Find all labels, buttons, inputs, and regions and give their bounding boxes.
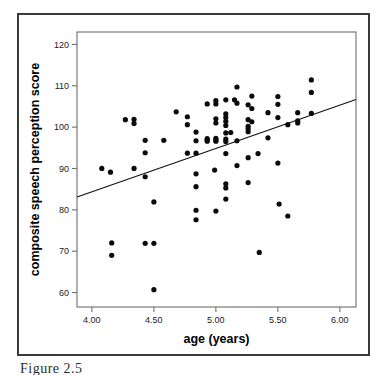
x-tick-label: 4.00: [83, 315, 101, 325]
data-point: [234, 101, 239, 106]
data-point: [108, 170, 113, 175]
x-tick-label: 4.50: [145, 315, 163, 325]
data-point: [295, 120, 300, 125]
data-point: [185, 114, 190, 119]
x-tick-label: 6.00: [331, 315, 349, 325]
data-point: [223, 151, 228, 156]
data-point: [228, 130, 233, 135]
x-axis-ticks: 4.004.505.005.506.00: [83, 307, 349, 325]
y-axis-title: composite speech perception score: [28, 63, 42, 276]
data-point: [212, 168, 217, 173]
data-point: [131, 166, 136, 171]
data-point: [213, 139, 218, 144]
data-point: [185, 151, 190, 156]
data-point: [257, 250, 262, 255]
data-point: [99, 166, 104, 171]
data-point: [151, 287, 156, 292]
data-point: [185, 122, 190, 127]
data-point: [161, 138, 166, 143]
data-point: [285, 213, 290, 218]
data-point: [246, 129, 251, 134]
data-point: [275, 115, 280, 120]
x-axis-title: age (years): [183, 332, 249, 346]
data-point: [193, 171, 198, 176]
data-point: [205, 101, 210, 106]
data-point: [249, 119, 254, 124]
data-point: [277, 201, 282, 206]
data-point: [143, 150, 148, 155]
x-tick-label: 5.50: [269, 315, 287, 325]
y-tick-label: 120: [54, 40, 69, 50]
y-tick-label: 80: [59, 205, 69, 215]
data-point: [223, 139, 228, 144]
data-point: [275, 160, 280, 165]
data-point: [249, 106, 254, 111]
data-point: [309, 77, 314, 82]
data-point: [205, 139, 210, 144]
data-point: [309, 90, 314, 95]
data-point: [143, 241, 148, 246]
data-point: [143, 174, 148, 179]
data-point: [213, 208, 218, 213]
data-point: [246, 102, 251, 107]
data-point: [246, 180, 251, 185]
data-point: [275, 94, 280, 99]
y-tick-label: 60: [59, 288, 69, 298]
data-point: [234, 84, 239, 89]
y-tick-label: 110: [55, 81, 69, 91]
data-point: [295, 110, 300, 115]
figure-container: 60708090100110120 4.004.505.005.506.00 a…: [0, 0, 388, 375]
data-point: [193, 184, 198, 189]
figure-caption: Figure 2.5: [20, 361, 350, 375]
y-tick-label: 90: [59, 164, 69, 174]
data-point: [249, 94, 254, 99]
data-point: [246, 155, 251, 160]
data-point: [265, 110, 270, 115]
data-point: [193, 208, 198, 213]
y-axis-ticks: 60708090100110120: [54, 40, 77, 298]
data-point: [131, 121, 136, 126]
y-tick-label: 70: [59, 246, 69, 256]
y-tick-label: 100: [54, 122, 69, 132]
data-point: [223, 97, 228, 102]
data-point: [109, 253, 114, 258]
data-point: [213, 101, 218, 106]
scatter-plot: 60708090100110120 4.004.505.005.506.00 a…: [17, 13, 370, 356]
data-point: [255, 151, 260, 156]
data-point: [193, 138, 198, 143]
data-point: [223, 185, 228, 190]
data-point: [151, 241, 156, 246]
data-point: [151, 199, 156, 204]
data-point: [223, 130, 228, 135]
data-point: [193, 129, 198, 134]
data-point: [143, 138, 148, 143]
data-point: [265, 135, 270, 140]
x-tick-label: 5.00: [207, 315, 225, 325]
data-point: [234, 163, 239, 168]
data-point: [193, 217, 198, 222]
data-point: [109, 240, 114, 245]
data-point: [275, 102, 280, 107]
data-point: [223, 123, 228, 128]
data-point: [223, 196, 228, 201]
data-point: [123, 117, 128, 122]
data-point: [174, 109, 179, 114]
data-point: [213, 120, 218, 125]
